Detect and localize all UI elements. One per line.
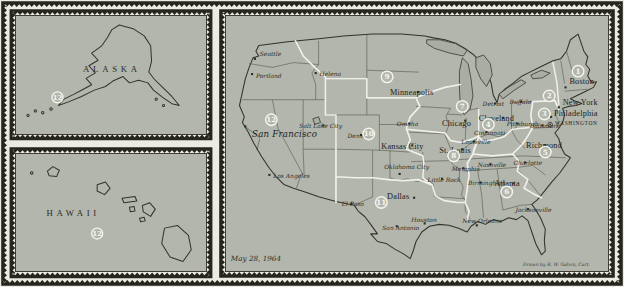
city-dot [315, 72, 317, 74]
city-dot [244, 125, 246, 127]
alaska-label: ALASKA [83, 64, 141, 74]
city-dot [476, 224, 478, 226]
district-number-badge: 12 [266, 114, 278, 125]
aleutian-islands [27, 98, 165, 116]
city-label: Los Angeles [272, 172, 310, 180]
hawaii-map: HAWAII 12 [16, 154, 206, 272]
city-label: Nashville [477, 161, 507, 168]
city-label: Salt Lake City [299, 122, 342, 130]
hawaii-inset-panel: HAWAII 12 [8, 146, 214, 280]
federal-reserve-districts-map-figure: ALASKA 12 [0, 0, 624, 287]
district-number-badge: 4 [483, 119, 495, 130]
us-map: SeattlePortlandHelenaSan FranciscoLos An… [226, 16, 608, 271]
city-label: Kansas City [381, 142, 424, 151]
city-dot [268, 174, 270, 176]
city-label: WASHINGTON [555, 120, 598, 126]
district-number-badge: 10 [363, 128, 375, 139]
city-label: Boston [569, 77, 594, 86]
city-label: Memphis [451, 165, 480, 173]
city-label: Seattle [260, 50, 282, 57]
city-labels-layer: SeattlePortlandHelenaSan FranciscoLos An… [244, 50, 598, 231]
svg-text:7: 7 [460, 102, 465, 111]
city-label: Oklahoma City [384, 163, 429, 171]
svg-text:3: 3 [542, 110, 547, 119]
district-number-badge: 7 [457, 101, 469, 112]
city-label: San Antonio [382, 224, 419, 231]
city-label: Baltimore [529, 122, 560, 129]
district-number-badge: 6 [501, 186, 513, 197]
district-number-badge: 1 [572, 65, 584, 76]
svg-text:1: 1 [576, 67, 581, 76]
city-label: Minneapolis [390, 88, 433, 97]
city-label: Jacksonville [514, 206, 552, 214]
svg-text:8: 8 [451, 151, 456, 160]
district-number-badge: 2 [543, 90, 555, 101]
svg-text:10: 10 [364, 130, 374, 139]
svg-text:12: 12 [92, 229, 102, 237]
city-dot [564, 86, 566, 88]
city-label: Little Rock [427, 176, 462, 183]
city-label: Charlotte [513, 159, 542, 166]
hawaii-label: HAWAII [46, 208, 99, 218]
city-label: Louisville [460, 138, 491, 145]
city-label: Chicago [442, 119, 471, 128]
svg-text:12: 12 [53, 94, 63, 102]
city-label: Houston [410, 217, 437, 224]
city-label: San Francisco [252, 129, 317, 139]
svg-text:2: 2 [547, 91, 552, 100]
city-label: New Orleans [461, 217, 501, 224]
alaska-district-badge: 12 [52, 92, 63, 103]
district-number-badge: 8 [448, 150, 460, 161]
map-date-label: May 28, 1964 [230, 254, 282, 263]
map-credit-label: Drawn by R. W. Galvin, Cart. [522, 262, 591, 268]
svg-text:9: 9 [385, 72, 390, 81]
city-label: Buffalo [509, 98, 532, 106]
alaska-map-area: ALASKA 12 [15, 15, 207, 135]
city-label: Detroit [482, 100, 505, 107]
hawaii-map-area: HAWAII 12 [15, 153, 207, 273]
alaska-map: ALASKA 12 [16, 16, 206, 134]
district-number-badge: 11 [376, 197, 388, 208]
city-label: New York [563, 98, 599, 107]
hawaii-district-badge: 12 [92, 228, 103, 239]
district-boundaries [295, 41, 559, 220]
district-number-badge: 12 [92, 228, 103, 239]
inset-column: ALASKA 12 [8, 8, 214, 279]
alaska-inset-panel: ALASKA 12 [8, 8, 214, 142]
district-number-badge: 9 [381, 71, 393, 82]
city-dot [413, 197, 415, 199]
svg-text:4: 4 [486, 120, 491, 129]
svg-text:11: 11 [376, 198, 386, 207]
main-map-area: SeattlePortlandHelenaSan FranciscoLos An… [225, 15, 609, 272]
district-number-badge: 3 [539, 108, 551, 119]
svg-text:12: 12 [266, 115, 276, 124]
city-dot [251, 73, 253, 75]
svg-text:5: 5 [543, 148, 548, 157]
city-label: Philadelphia [554, 109, 598, 118]
main-map-panel: SeattlePortlandHelenaSan FranciscoLos An… [218, 8, 616, 279]
city-label: Portland [255, 72, 282, 79]
district-number-badge: 12 [52, 92, 63, 103]
city-label: Helena [319, 70, 342, 77]
city-label: El Paso [341, 200, 365, 207]
city-label: Dallas [387, 192, 409, 201]
city-dot [399, 173, 401, 175]
city-label: Omaha [397, 120, 419, 127]
district-number-badge: 5 [540, 146, 552, 157]
city-dot [254, 58, 256, 60]
svg-text:6: 6 [504, 188, 509, 197]
